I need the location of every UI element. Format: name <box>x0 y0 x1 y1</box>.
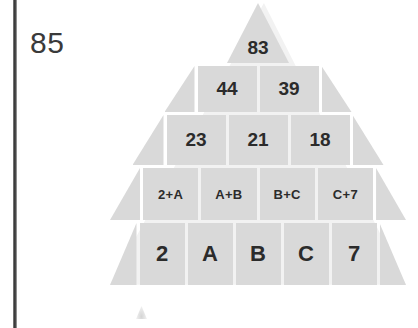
pyramid-row-third: 23 21 18 <box>110 115 406 165</box>
pyramid-edge-filler-left <box>110 223 137 285</box>
pyramid-edge-filler-right <box>353 115 384 165</box>
question-number: 85 <box>30 28 64 58</box>
pyramid-cell: 2+A <box>143 168 198 220</box>
pyramid-row-base: 2 A B C 7 <box>110 223 406 285</box>
scanned-puzzle-page: 85 83 44 39 23 21 18 2+A A+B B+C C+7 <box>0 0 418 328</box>
page-left-rule <box>13 0 17 328</box>
pyramid-cell: A <box>188 223 233 285</box>
pyramid-cell: B <box>236 223 281 285</box>
pyramid-cell: 2 <box>140 223 185 285</box>
pyramid-row-second: 44 39 <box>110 66 406 112</box>
pyramid-edge-filler-left <box>165 66 195 112</box>
scan-artifact <box>136 306 147 319</box>
pyramid-cell: 23 <box>167 115 226 165</box>
pyramid-edge-filler-right <box>322 66 352 112</box>
pyramid-edge-filler-left <box>133 115 164 165</box>
pyramid-row-fourth: 2+A A+B B+C C+7 <box>110 168 406 220</box>
pyramid-cell: 7 <box>332 223 377 285</box>
pyramid-row-apex: 83 <box>110 3 406 63</box>
pyramid-edge-filler-right <box>376 168 406 220</box>
pyramid-cell: 21 <box>229 115 288 165</box>
pyramid-cell: A+B <box>201 168 256 220</box>
pyramid-cell: 83 <box>227 3 289 63</box>
pyramid-cell: 18 <box>291 115 350 165</box>
pyramid-edge-filler-left <box>110 168 140 220</box>
pyramid-cell: C+7 <box>318 168 373 220</box>
pyramid-cell: C <box>284 223 329 285</box>
pyramid-edge-filler-right <box>380 223 407 285</box>
pyramid-cell: 44 <box>198 66 257 112</box>
pyramid-cell: B+C <box>260 168 315 220</box>
pyramid-cell: 39 <box>260 66 319 112</box>
number-pyramid-diagram: 83 44 39 23 21 18 2+A A+B B+C C+7 <box>110 3 406 289</box>
